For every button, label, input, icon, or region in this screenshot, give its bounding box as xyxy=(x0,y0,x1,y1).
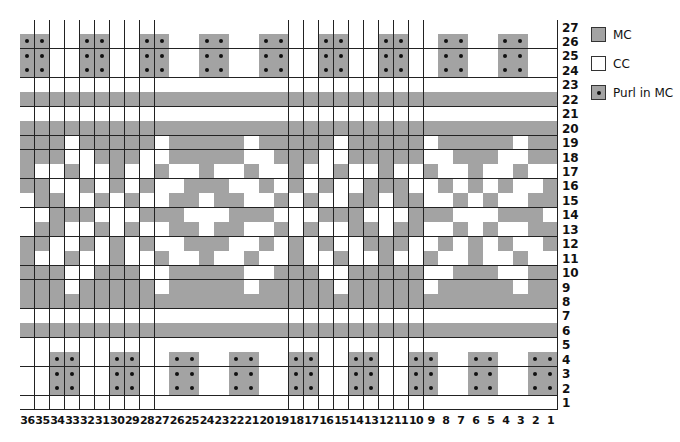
cc-cell xyxy=(289,193,304,208)
purl-cell xyxy=(184,381,199,396)
cc-cell xyxy=(528,237,543,252)
cc-cell xyxy=(438,396,453,411)
cc-cell xyxy=(543,208,558,223)
mc-cell xyxy=(274,121,289,136)
cc-cell xyxy=(65,266,80,281)
cc-cell xyxy=(513,280,528,295)
cc-cell xyxy=(453,251,468,266)
column-label: 21 xyxy=(244,414,259,427)
purl-cell xyxy=(289,367,304,382)
cc-cell xyxy=(468,208,483,223)
mc-cell xyxy=(304,136,319,151)
mc-cell xyxy=(125,222,140,237)
cc-cell xyxy=(513,150,528,165)
cc-cell xyxy=(229,338,244,353)
purl-cell xyxy=(65,367,80,382)
cc-cell xyxy=(274,396,289,411)
mc-cell xyxy=(169,193,184,208)
column-label: 29 xyxy=(125,414,140,427)
cc-cell xyxy=(184,309,199,324)
cc-cell xyxy=(35,20,50,35)
mc-cell xyxy=(528,121,543,136)
cc-cell xyxy=(214,20,229,35)
cc-cell xyxy=(304,251,319,266)
mc-cell xyxy=(50,193,65,208)
mc-cell xyxy=(274,136,289,151)
cc-cell xyxy=(65,280,80,295)
purl-cell xyxy=(80,34,95,49)
cc-cell xyxy=(199,193,214,208)
mc-cell xyxy=(199,136,214,151)
mc-cell xyxy=(349,121,364,136)
mc-cell xyxy=(35,323,50,338)
mc-cell xyxy=(528,280,543,295)
cc-cell xyxy=(513,20,528,35)
cc-cell xyxy=(65,396,80,411)
cc-cell xyxy=(319,309,334,324)
purl-cell xyxy=(528,381,543,396)
mc-cell xyxy=(95,92,110,107)
mc-cell xyxy=(259,179,274,194)
purl-cell xyxy=(214,63,229,78)
cc-cell xyxy=(513,179,528,194)
purl-cell xyxy=(453,34,468,49)
mc-cell xyxy=(364,179,379,194)
mc-cell xyxy=(125,280,140,295)
cc-cell xyxy=(259,251,274,266)
purl-cell xyxy=(304,352,319,367)
cc-cell xyxy=(169,63,184,78)
column-label: 4 xyxy=(498,414,513,427)
mc-cell xyxy=(379,164,394,179)
purl-cell xyxy=(498,63,513,78)
mc-cell xyxy=(140,121,155,136)
mc-cell xyxy=(543,266,558,281)
mc-cell xyxy=(394,280,409,295)
mc-cell xyxy=(349,208,364,223)
mc-cell xyxy=(95,193,110,208)
mc-cell xyxy=(379,323,394,338)
mc-cell xyxy=(169,222,184,237)
mc-cell xyxy=(125,193,140,208)
cc-cell xyxy=(483,208,498,223)
mc-cell xyxy=(364,280,379,295)
mc-cell xyxy=(438,208,453,223)
cc-cell xyxy=(498,396,513,411)
cc-cell xyxy=(394,251,409,266)
cc-cell xyxy=(140,367,155,382)
cc-cell xyxy=(125,63,140,78)
cc-cell xyxy=(468,193,483,208)
cc-cell xyxy=(349,107,364,122)
mc-cell xyxy=(199,323,214,338)
mc-cell xyxy=(155,121,170,136)
cc-cell xyxy=(20,396,35,411)
mc-cell xyxy=(35,92,50,107)
purl-cell xyxy=(334,49,349,64)
mc-cell xyxy=(543,222,558,237)
column-label: 12 xyxy=(379,414,394,427)
purl-cell xyxy=(483,367,498,382)
cc-cell xyxy=(304,208,319,223)
cc-cell xyxy=(125,309,140,324)
cc-cell xyxy=(20,309,35,324)
cc-cell xyxy=(394,381,409,396)
cc-cell xyxy=(125,208,140,223)
mc-cell xyxy=(169,266,184,281)
cc-cell xyxy=(50,396,65,411)
purl-cell xyxy=(35,34,50,49)
cc-cell xyxy=(229,237,244,252)
cc-cell xyxy=(35,251,50,266)
purl-cell xyxy=(498,34,513,49)
purl-cell xyxy=(424,367,439,382)
mc-cell xyxy=(543,294,558,309)
mc-cell xyxy=(214,92,229,107)
cc-cell xyxy=(214,381,229,396)
mc-cell xyxy=(334,251,349,266)
cc-cell xyxy=(259,150,274,165)
cc-cell xyxy=(468,49,483,64)
cc-cell xyxy=(140,338,155,353)
cc-cell xyxy=(483,63,498,78)
purl-cell xyxy=(65,381,80,396)
column-label: 31 xyxy=(95,414,110,427)
cc-cell xyxy=(244,266,259,281)
mc-cell xyxy=(184,222,199,237)
